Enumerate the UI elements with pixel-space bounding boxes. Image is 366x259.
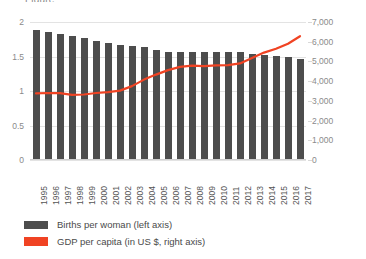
- right-axis-tick-mark: [308, 61, 312, 62]
- line-series: [30, 22, 306, 160]
- right-axis-tick-label: 3,000: [312, 97, 358, 105]
- right-axis-tick-label: 5,000: [312, 57, 358, 65]
- x-axis-tick-label: 1998: [76, 186, 84, 205]
- x-axis-tick-label: 2009: [208, 186, 216, 205]
- left-axis-tick-label: 1.5: [0, 53, 24, 61]
- x-axis-tick-label: 2007: [184, 186, 192, 205]
- left-axis-tick-label: 2: [0, 18, 24, 26]
- left-axis-tick-label: 1: [0, 87, 24, 95]
- x-axis-tick-label: 1996: [52, 186, 60, 205]
- x-axis-tick-label: 2008: [196, 186, 204, 205]
- right-axis-tick-label: 1,000: [312, 136, 358, 144]
- x-axis-tick-label: 2010: [220, 186, 228, 205]
- x-axis-tick-label: 2017: [304, 186, 312, 205]
- x-axis-tick-label: 2004: [148, 186, 156, 205]
- x-axis-tick-label: 2014: [268, 186, 276, 205]
- right-axis-tick-mark: [308, 81, 312, 82]
- right-axis-tick-label: 0: [312, 156, 358, 164]
- x-axis-baseline: [30, 159, 306, 160]
- legend-item-gdp: GDP per capita (in US $, right axis): [24, 233, 354, 250]
- plot-area: [30, 22, 306, 160]
- x-axis-tick-label: 2013: [256, 186, 264, 205]
- x-axis-tick-label: 1997: [64, 186, 72, 205]
- right-axis-tick-mark: [308, 160, 312, 161]
- x-axis-tick-label: 1999: [88, 186, 96, 205]
- x-axis-tick-label: 2006: [172, 186, 180, 205]
- legend-swatch-line-icon: [24, 237, 48, 246]
- x-axis-tick-label: 1995: [40, 186, 48, 205]
- legend-label-births: Births per woman (left axis): [57, 219, 172, 230]
- x-axis-tick-label: 2015: [280, 186, 288, 205]
- right-axis-tick-label: 6,000: [312, 38, 358, 46]
- right-axis-tick-mark: [308, 140, 312, 141]
- x-axis-tick-label: 2003: [136, 186, 144, 205]
- right-axis-tick-label: 2,000: [312, 117, 358, 125]
- legend-label-gdp: GDP per capita (in US $, right axis): [57, 236, 205, 247]
- left-axis-tick-label: 0.5: [0, 122, 24, 130]
- right-axis-tick-label: 7,000: [312, 18, 358, 26]
- x-axis-tick-label: 2005: [160, 186, 168, 205]
- legend-swatch-bar-icon: [24, 221, 48, 229]
- x-axis-tick-label: 2012: [244, 186, 252, 205]
- left-axis-tick-label: 0: [0, 156, 24, 164]
- x-axis-tick-label: 2016: [292, 186, 300, 205]
- right-axis-tick-mark: [308, 121, 312, 122]
- right-axis-tick-label: 4,000: [312, 77, 358, 85]
- x-axis-labels: 1995199619971998199920002001200220032004…: [30, 163, 306, 207]
- heading-fragment: Figure: [25, 0, 55, 2]
- chart-container: Figure 00.511.52 01,0002,0003,0004,0005,…: [0, 0, 366, 259]
- x-axis-tick-label: 2001: [112, 186, 120, 205]
- x-axis-tick-label: 2002: [124, 186, 132, 205]
- legend-item-births: Births per woman (left axis): [24, 216, 354, 233]
- right-axis-tick-mark: [308, 22, 312, 23]
- x-axis-tick-label: 2000: [100, 186, 108, 205]
- chart-legend: Births per woman (left axis) GDP per cap…: [24, 216, 354, 250]
- right-axis-tick-mark: [308, 42, 312, 43]
- right-axis-tick-mark: [308, 101, 312, 102]
- gridline: [30, 160, 306, 161]
- x-axis-tick-label: 2011: [232, 187, 240, 205]
